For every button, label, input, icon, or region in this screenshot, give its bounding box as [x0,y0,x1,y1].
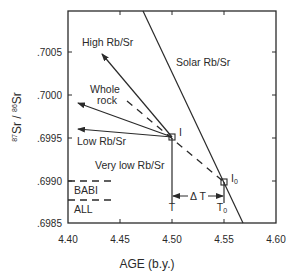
y-tick-label: .6995 [37,133,62,144]
label-babi: BABI [74,184,98,196]
x-tick-label: 4.60 [266,234,286,245]
label-low-rb-sr: Low Rb/Sr [77,135,127,147]
label-high-rb-sr: High Rb/Sr [82,36,134,48]
x-tick-label: 4.50 [162,234,182,245]
label-rock: rock [97,94,118,106]
y-axis-title: 87Sr / 86Sr [10,92,24,142]
y-tick-label: .6990 [37,176,62,187]
isotope-evolution-chart: 4.40 4.45 4.50 4.55 4.60 .6985 .6990 .69… [0,0,291,277]
x-tick-label: 4.55 [214,234,234,245]
label-I: I [179,126,182,138]
y-tick-label: .7005 [37,47,62,58]
y-tick-label: .7000 [37,90,62,101]
label-T0: T0 [217,201,227,214]
label-T: T [169,201,176,213]
x-tick-label: 4.40 [58,234,78,245]
x-axis-title: AGE (b.y.) [119,257,174,271]
x-tick-label: 4.45 [110,234,130,245]
label-very-low-rb-sr: Very low Rb/Sr [95,159,165,171]
label-solar-rb-sr: Solar Rb/Sr [176,56,231,68]
label-all: ALL [74,203,93,215]
delta-t-label: Δ T [190,190,206,202]
label-I0: I0 [231,172,238,185]
y-tick-label: .6985 [37,218,62,229]
